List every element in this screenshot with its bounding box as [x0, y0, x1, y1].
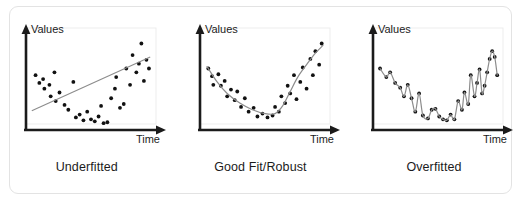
- data-point: [243, 96, 247, 100]
- data-point: [142, 79, 146, 83]
- data-point: [273, 105, 277, 109]
- data-point: [85, 110, 89, 114]
- data-point: [78, 113, 82, 117]
- panel-good-fit: Values Time Good Fit/Robust: [174, 0, 348, 207]
- x-axis-label: Time: [483, 133, 507, 145]
- panel-caption-underfitted: Underfitted: [0, 160, 174, 174]
- panel-overfitted: Values Time Overfitted: [347, 0, 521, 207]
- chart-svg-good-fit: Values Time: [174, 10, 348, 145]
- data-point: [317, 63, 321, 67]
- data-point: [279, 94, 283, 98]
- plot-underfitted: Values Time: [0, 10, 174, 145]
- data-point: [58, 91, 62, 95]
- y-axis-label: Values: [378, 23, 411, 35]
- data-point: [49, 94, 53, 98]
- data-point: [105, 120, 109, 124]
- data-point: [246, 110, 250, 114]
- data-point: [42, 87, 46, 91]
- data-point: [53, 70, 57, 74]
- data-point: [118, 106, 122, 110]
- data-point: [285, 84, 289, 88]
- data-point: [122, 102, 126, 106]
- panel-caption-good-fit: Good Fit/Robust: [174, 160, 348, 174]
- plot-frame: [200, 28, 330, 124]
- data-point: [139, 42, 143, 46]
- data-point: [97, 115, 101, 119]
- data-point: [74, 116, 78, 120]
- data-point: [63, 103, 67, 107]
- data-point: [89, 117, 93, 121]
- chart-svg-underfitted: Values Time: [0, 10, 174, 145]
- data-point: [41, 77, 45, 81]
- data-point: [113, 87, 117, 91]
- data-point: [128, 83, 132, 87]
- data-point: [34, 73, 38, 77]
- plot-good-fit: Values Time: [174, 10, 348, 145]
- y-axis-label: Values: [31, 23, 64, 35]
- data-point: [93, 119, 97, 123]
- data-point: [99, 104, 103, 108]
- data-point: [229, 88, 233, 92]
- y-axis-label: Values: [205, 23, 238, 35]
- data-point: [66, 108, 70, 112]
- data-point: [102, 121, 106, 125]
- data-point: [147, 67, 151, 71]
- x-axis-label: Time: [136, 133, 160, 145]
- data-point: [292, 73, 296, 77]
- data-point: [255, 115, 259, 119]
- data-point: [109, 96, 113, 100]
- panel-caption-overfitted: Overfitted: [347, 160, 521, 174]
- chart-svg-overfitted: Values Time: [347, 10, 521, 145]
- data-point: [37, 81, 41, 85]
- data-point: [71, 80, 75, 84]
- data-point: [304, 87, 308, 91]
- data-point: [216, 72, 220, 76]
- data-point: [239, 105, 243, 109]
- data-point: [48, 83, 52, 87]
- data-point: [298, 80, 302, 84]
- data-point: [235, 90, 239, 94]
- panel-row: Values Time Underfitted Values Time: [0, 0, 521, 207]
- data-point: [82, 118, 86, 122]
- data-point: [311, 73, 315, 77]
- figure-root: Values Time Underfitted Values Time: [0, 0, 521, 207]
- data-point: [114, 75, 118, 79]
- x-axis-label: Time: [310, 133, 334, 145]
- plot-frame: [26, 28, 156, 124]
- data-point: [294, 97, 298, 101]
- plot-overfitted: Values Time: [347, 10, 521, 145]
- data-point: [134, 70, 138, 74]
- data-point: [131, 53, 135, 57]
- panel-underfitted: Values Time Underfitted: [0, 0, 174, 207]
- data-point: [222, 79, 226, 83]
- data-point: [265, 116, 269, 120]
- data-point: [211, 83, 215, 87]
